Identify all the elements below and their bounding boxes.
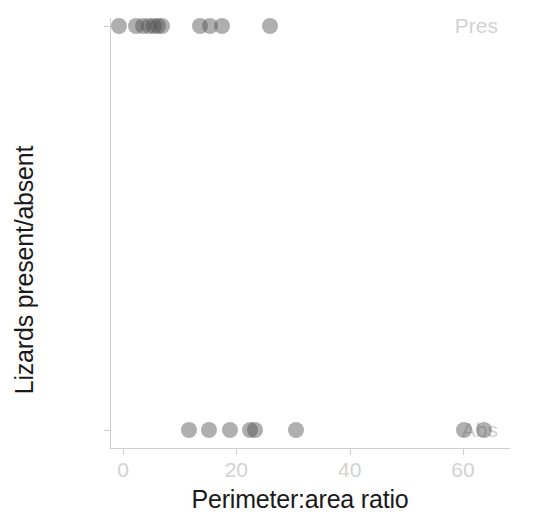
data-point [201, 422, 217, 438]
plot-panel: Pres Abs 0 20 40 60 [110, 18, 510, 448]
y-axis-title: Lizards present/absent [0, 0, 48, 532]
data-point [288, 422, 304, 438]
data-point [262, 18, 278, 34]
x-tick-mark-40 [350, 449, 351, 455]
data-point [181, 422, 197, 438]
data-point [456, 422, 472, 438]
y-axis-title-text: Lizards present/absent [10, 146, 39, 395]
scatter-plot-figure: Lizards present/absent Pres Abs 0 20 40 … [0, 0, 551, 532]
y-axis-line [110, 18, 111, 448]
x-tick-mark-20 [236, 449, 237, 455]
x-tick-label-0: 0 [117, 458, 129, 482]
data-point [154, 18, 170, 34]
data-point [247, 422, 263, 438]
y-tick-mark-abs [104, 430, 110, 431]
data-point [222, 422, 238, 438]
x-tick-label-60: 60 [451, 458, 474, 482]
y-tick-label-pres: Pres [455, 14, 498, 38]
data-point [214, 18, 230, 34]
x-tick-label-20: 20 [225, 458, 248, 482]
x-tick-mark-0 [123, 449, 124, 455]
x-axis-line [110, 448, 510, 449]
x-tick-label-40: 40 [338, 458, 361, 482]
y-tick-mark-pres [104, 26, 110, 27]
data-point [111, 18, 127, 34]
data-point [476, 422, 492, 438]
x-tick-mark-60 [463, 449, 464, 455]
x-axis-title: Perimeter:area ratio [110, 485, 490, 514]
